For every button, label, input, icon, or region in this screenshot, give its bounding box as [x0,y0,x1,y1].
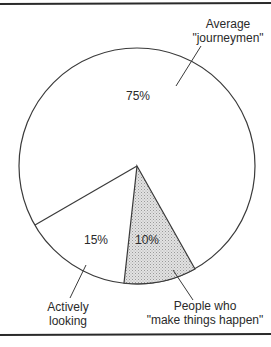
leader-line-looking [70,265,86,298]
callout-journeymen-line2: "journeymen" [192,31,263,45]
top-rule [0,3,271,4]
pct-label-happen: 10% [135,233,159,247]
pct-label-journeymen: 75% [126,89,150,103]
pct-label-looking: 15% [84,233,108,247]
pie-chart: 75% 15% 10% Average "journeymen" Activel… [0,0,271,347]
callout-happen-line1: People who [174,299,237,313]
bottom-rule [0,334,271,335]
callout-happen-line2: "make things happen" [147,313,264,327]
callout-looking-line1: Actively [47,300,88,314]
callout-journeymen-line1: Average [206,17,251,31]
callout-looking-line2: looking [49,314,87,328]
